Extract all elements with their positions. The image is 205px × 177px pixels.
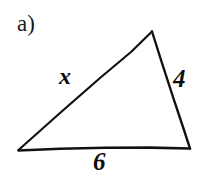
- side-label-unknown: x: [59, 64, 71, 88]
- side-label-right: 4: [173, 66, 186, 91]
- triangle-edge-hypotenuse: [19, 32, 153, 151]
- triangle-outline: [19, 32, 191, 151]
- triangle-figure: a) x 4 6: [0, 0, 205, 177]
- part-label: a): [17, 12, 35, 35]
- side-label-bottom: 6: [93, 149, 106, 174]
